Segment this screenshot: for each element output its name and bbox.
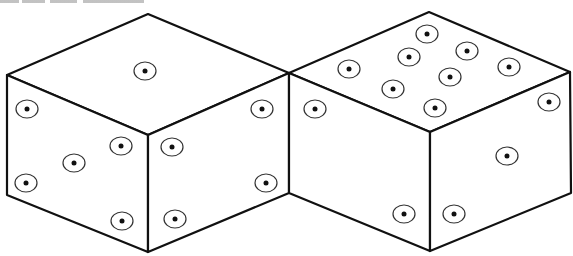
pip-dot [547,100,552,105]
pip-dot [264,181,269,186]
pip-dot [72,161,77,166]
pip-dot [402,212,407,217]
pip-dot [173,217,178,222]
pip-dot [452,212,457,217]
pip-dot [25,107,30,112]
pip-dot [505,154,510,159]
pip-dot [507,65,512,70]
pip-dot [391,87,396,92]
pip-dot [407,55,412,60]
pip-dot [170,145,175,150]
pip-dot [347,67,352,72]
pip-dot [465,49,470,54]
pip-dot [313,107,318,112]
pip-dot [425,32,430,37]
dice-diagram [0,0,573,256]
pip-dot [24,181,29,186]
pip-dot [433,106,438,111]
left-die [7,14,289,252]
pip-dot [448,75,453,80]
pip-dot [120,219,125,224]
pip-dot [119,144,124,149]
pip-dot [143,69,148,74]
right-die [289,12,571,251]
pip-dot [260,107,265,112]
